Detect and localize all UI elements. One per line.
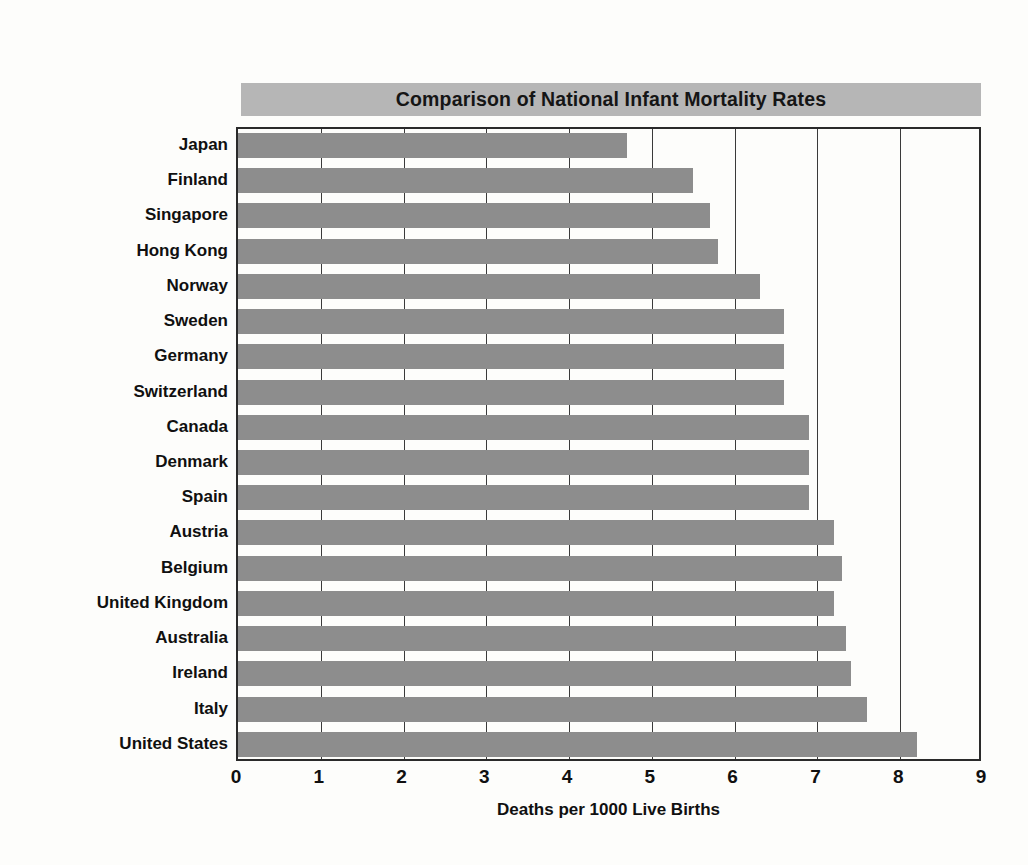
bar-row — [238, 305, 979, 340]
bar-row — [238, 411, 979, 446]
bar[interactable] — [238, 591, 834, 616]
y-axis-label: Switzerland — [134, 374, 228, 409]
bar[interactable] — [238, 520, 834, 545]
x-axis-tick: 1 — [299, 766, 339, 788]
x-axis-tick: 2 — [382, 766, 422, 788]
y-axis-labels: JapanFinlandSingaporeHong KongNorwaySwed… — [0, 127, 228, 761]
bar-row — [238, 728, 979, 763]
y-axis-label: Austria — [169, 514, 228, 549]
y-axis-label: Norway — [167, 268, 228, 303]
x-axis-ticks: 0123456789 — [236, 766, 981, 796]
y-axis-label: Italy — [194, 691, 228, 726]
x-axis-tick: 3 — [464, 766, 504, 788]
y-axis-label: Australia — [155, 620, 228, 655]
bar-row — [238, 481, 979, 516]
y-axis-label: Hong Kong — [136, 233, 228, 268]
bar[interactable] — [238, 133, 627, 158]
bar-row — [238, 622, 979, 657]
y-axis-label: Ireland — [172, 655, 228, 690]
y-axis-label: United States — [119, 726, 228, 761]
bar[interactable] — [238, 309, 784, 334]
x-axis-tick: 0 — [216, 766, 256, 788]
bar[interactable] — [238, 485, 809, 510]
x-axis-tick: 7 — [795, 766, 835, 788]
bar[interactable] — [238, 415, 809, 440]
bar-row — [238, 657, 979, 692]
bar[interactable] — [238, 697, 867, 722]
x-axis-tick: 5 — [630, 766, 670, 788]
bar[interactable] — [238, 274, 760, 299]
bar[interactable] — [238, 203, 710, 228]
bar-row — [238, 552, 979, 587]
plot-area — [236, 127, 981, 761]
y-axis-label: Canada — [167, 409, 228, 444]
y-axis-label: Spain — [182, 479, 228, 514]
y-axis-label: Finland — [168, 162, 228, 197]
bar[interactable] — [238, 626, 846, 651]
x-axis-tick: 8 — [878, 766, 918, 788]
bar[interactable] — [238, 556, 842, 581]
bar[interactable] — [238, 450, 809, 475]
chart-title: Comparison of National Infant Mortality … — [396, 88, 826, 111]
bar-row — [238, 446, 979, 481]
bar-row — [238, 164, 979, 199]
bar-row — [238, 129, 979, 164]
bar-row — [238, 587, 979, 622]
chart-figure: Comparison of National Infant Mortality … — [0, 0, 1028, 865]
bar[interactable] — [238, 380, 784, 405]
x-axis-tick: 6 — [713, 766, 753, 788]
y-axis-label: Denmark — [155, 444, 228, 479]
y-axis-label: Belgium — [161, 550, 228, 585]
y-axis-label: Singapore — [145, 197, 228, 232]
x-axis-tick: 4 — [547, 766, 587, 788]
bar-row — [238, 199, 979, 234]
bar[interactable] — [238, 168, 693, 193]
bar-row — [238, 340, 979, 375]
x-axis-label: Deaths per 1000 Live Births — [236, 800, 981, 820]
chart-title-banner: Comparison of National Infant Mortality … — [241, 83, 981, 116]
bar[interactable] — [238, 344, 784, 369]
bar-row — [238, 270, 979, 305]
bar[interactable] — [238, 732, 917, 757]
bar-row — [238, 693, 979, 728]
x-axis-tick: 9 — [961, 766, 1001, 788]
bar-row — [238, 376, 979, 411]
bar[interactable] — [238, 239, 718, 264]
bar[interactable] — [238, 661, 851, 686]
bar-row — [238, 235, 979, 270]
bar-row — [238, 516, 979, 551]
y-axis-label: Germany — [154, 338, 228, 373]
y-axis-label: United Kingdom — [97, 585, 228, 620]
y-axis-label: Sweden — [164, 303, 228, 338]
bars-layer — [238, 129, 979, 759]
y-axis-label: Japan — [179, 127, 228, 162]
